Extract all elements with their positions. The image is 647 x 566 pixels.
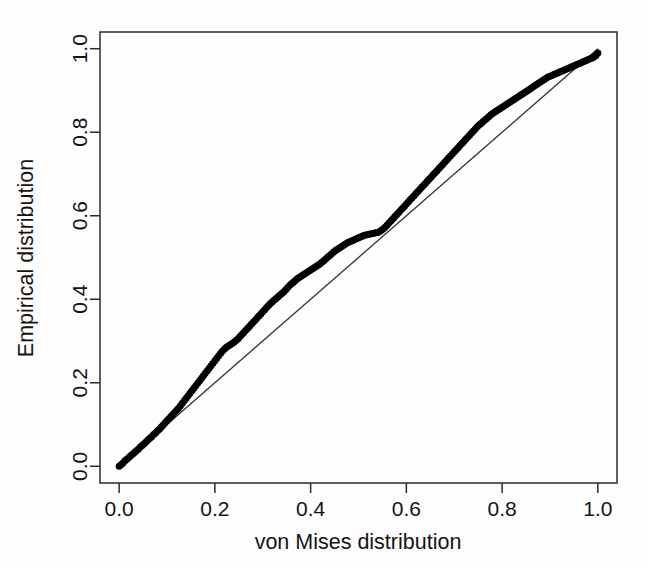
y-axis-tick-labels: 0.00.20.40.60.81.0	[69, 34, 92, 481]
data-point-group	[116, 49, 602, 469]
y-tick-label: 0.4	[69, 284, 92, 314]
x-tick-label: 0.4	[296, 497, 326, 520]
y-tick-label: 1.0	[69, 34, 92, 63]
x-tick-label: 0.8	[488, 497, 517, 520]
x-axis-tickmarks	[119, 483, 598, 493]
y-axis-title: Empirical distribution	[14, 159, 38, 357]
x-axis-title: von Mises distribution	[255, 530, 462, 554]
x-tick-label: 0.0	[105, 497, 134, 520]
y-tick-label: 0.6	[69, 201, 92, 230]
y-tick-label: 0.0	[69, 452, 92, 481]
x-tick-label: 0.6	[392, 497, 421, 520]
identity-reference-line	[119, 49, 598, 467]
y-tick-label: 0.8	[69, 118, 92, 147]
y-axis-tickmarks	[90, 49, 100, 467]
x-axis-tick-labels: 0.00.20.40.60.81.0	[105, 497, 613, 520]
plot-canvas: 0.00.20.40.60.81.0 0.00.20.40.60.81.0 vo…	[0, 0, 647, 566]
pp-plot-figure: 0.00.20.40.60.81.0 0.00.20.40.60.81.0 vo…	[0, 0, 647, 566]
y-tick-label: 0.2	[69, 368, 92, 397]
data-point	[594, 49, 601, 56]
x-tick-label: 0.2	[200, 497, 229, 520]
x-tick-label: 1.0	[583, 497, 612, 520]
